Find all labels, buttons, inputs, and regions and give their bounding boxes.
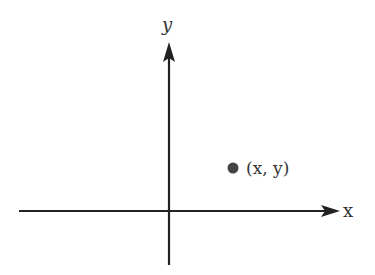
coordinate-plane-diagram: x y (x, y) <box>0 0 375 275</box>
point-marker <box>228 163 239 174</box>
x-axis-label: x <box>343 200 353 221</box>
point-label: (x, y) <box>246 158 289 178</box>
x-axis <box>19 205 340 217</box>
y-axis <box>163 42 175 265</box>
y-axis-label: y <box>161 14 173 35</box>
